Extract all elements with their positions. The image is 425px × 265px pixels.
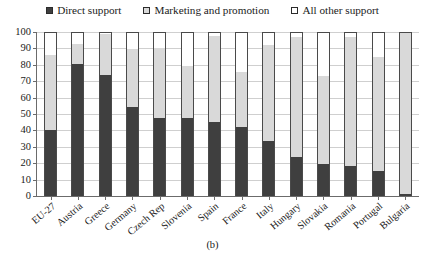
y-tick-label: 60 <box>21 92 32 103</box>
bar-group: EU-27AustriaGreeceGermanyCzech RepSloven… <box>37 32 419 196</box>
x-tick-mark <box>269 196 270 200</box>
x-tick-mark <box>323 196 324 200</box>
legend-swatch-icon <box>291 7 298 14</box>
bar-segment <box>208 36 221 122</box>
bar-segment <box>235 72 248 127</box>
x-tick-label: EU-27 <box>30 201 57 226</box>
x-tick-mark <box>160 196 161 200</box>
bar-segment <box>235 32 248 72</box>
bar-segment <box>372 57 385 172</box>
bar-slot: Portugal <box>364 32 391 196</box>
x-tick-label: Slovenia <box>160 201 194 232</box>
bar-segment <box>399 194 412 196</box>
stacked-bar[interactable] <box>262 32 275 196</box>
stacked-bar[interactable] <box>399 32 412 196</box>
chart-legend: Direct supportMarketing and promotionAll… <box>0 2 425 20</box>
bar-segment <box>71 64 84 196</box>
legend-item: Direct support <box>46 5 121 16</box>
bar-slot: Spain <box>201 32 228 196</box>
x-tick-mark <box>351 196 352 200</box>
stacked-bar[interactable] <box>235 32 248 196</box>
x-tick-mark <box>378 196 379 200</box>
bar-segment <box>126 32 139 49</box>
bar-slot: Germany <box>119 32 146 196</box>
bar-segment <box>153 48 166 118</box>
x-tick-mark <box>296 196 297 200</box>
bar-segment <box>372 32 385 57</box>
stacked-bar[interactable] <box>153 32 166 196</box>
plot-area: 0102030405060708090100 EU-27AustriaGreec… <box>36 32 419 197</box>
x-tick-label: Bulgaria <box>378 201 411 231</box>
y-tick-label: 100 <box>15 27 31 38</box>
stacked-bar[interactable] <box>126 32 139 196</box>
bar-slot: Czech Rep <box>146 32 173 196</box>
bar-segment <box>44 55 57 130</box>
bar-segment <box>99 34 112 74</box>
bar-segment <box>262 45 275 141</box>
x-tick-label: Spain <box>197 201 221 224</box>
bar-segment <box>126 49 139 106</box>
stacked-bar[interactable] <box>344 32 357 196</box>
legend-swatch-icon <box>46 7 53 14</box>
bar-segment <box>399 33 412 194</box>
bar-segment <box>153 32 166 48</box>
bar-segment <box>153 118 166 196</box>
bar-slot: Romania <box>337 32 364 196</box>
x-tick-mark <box>187 196 188 200</box>
bar-segment <box>372 171 385 196</box>
bar-slot: Hungary <box>283 32 310 196</box>
x-tick-mark <box>78 196 79 200</box>
y-tick-label: 50 <box>21 109 32 120</box>
bar-segment <box>71 44 84 64</box>
bar-segment <box>99 75 112 196</box>
stacked-bar[interactable] <box>208 32 221 196</box>
figure-caption: (b) <box>0 240 425 251</box>
bar-segment <box>344 166 357 196</box>
bar-slot: Slovenia <box>173 32 200 196</box>
x-tick-label: Austria <box>55 201 85 228</box>
bar-slot: Greece <box>92 32 119 196</box>
stacked-bar[interactable] <box>99 32 112 196</box>
x-tick-mark <box>105 196 106 200</box>
stacked-bar[interactable] <box>290 32 303 196</box>
legend-label: Direct support <box>57 5 121 16</box>
bar-segment <box>44 130 57 196</box>
y-tick-label: 80 <box>21 60 32 71</box>
legend-label: All other support <box>302 5 378 16</box>
stacked-bar[interactable] <box>317 32 330 196</box>
bar-slot: Bulgaria <box>392 32 419 196</box>
y-tick-label: 40 <box>21 125 32 136</box>
x-tick-mark <box>51 196 52 200</box>
y-tick-mark <box>33 196 37 197</box>
stacked-bar[interactable] <box>372 32 385 196</box>
x-tick-mark <box>405 196 406 200</box>
stacked-bar[interactable] <box>71 32 84 196</box>
y-tick-label: 70 <box>21 76 32 87</box>
bar-segment <box>317 76 330 164</box>
stacked-bar-chart: Direct supportMarketing and promotionAll… <box>0 0 425 265</box>
legend-item: Marketing and promotion <box>143 5 269 16</box>
y-tick-label: 0 <box>26 191 31 202</box>
bar-segment <box>235 127 248 196</box>
bar-segment <box>290 37 303 158</box>
stacked-bar[interactable] <box>44 32 57 196</box>
bar-segment <box>317 164 330 196</box>
legend-label: Marketing and promotion <box>154 5 269 16</box>
bar-segment <box>71 32 84 44</box>
x-tick-mark <box>132 196 133 200</box>
bar-segment <box>262 141 275 196</box>
bar-segment <box>181 118 194 196</box>
bar-segment <box>126 107 139 196</box>
bar-segment <box>290 157 303 196</box>
y-tick-label: 10 <box>21 174 32 185</box>
bar-segment <box>262 32 275 45</box>
x-tick-mark <box>214 196 215 200</box>
x-tick-label: France <box>220 201 248 227</box>
stacked-bar[interactable] <box>181 32 194 196</box>
bar-slot: France <box>228 32 255 196</box>
y-tick-label: 20 <box>21 158 32 169</box>
bar-slot: EU-27 <box>37 32 64 196</box>
legend-item: All other support <box>291 5 378 16</box>
bar-slot: Slovakia <box>310 32 337 196</box>
bar-segment <box>317 32 330 76</box>
